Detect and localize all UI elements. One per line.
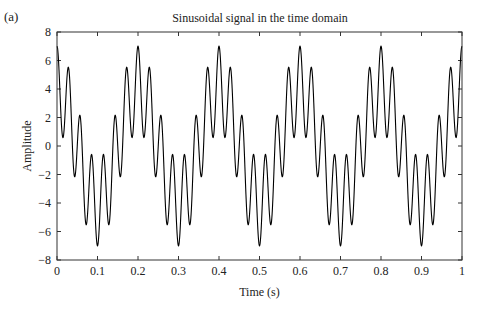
x-axis-label: Time (s) — [239, 285, 280, 299]
x-tick-label: 0.8 — [374, 264, 389, 278]
y-tick-label: 4 — [45, 82, 51, 96]
x-tick-label: 0.4 — [212, 264, 227, 278]
x-tick-label: 0.6 — [293, 264, 308, 278]
x-tick-label: 0 — [54, 264, 60, 278]
x-tick-label: 0.2 — [131, 264, 146, 278]
x-tick-label: 0.7 — [333, 264, 348, 278]
y-tick-label: −4 — [38, 196, 51, 210]
x-tick-label: 0.1 — [90, 264, 105, 278]
y-tick-label: 2 — [45, 111, 51, 125]
y-axis-label: Amplitude — [20, 120, 34, 171]
signal-line — [57, 46, 462, 246]
x-tick-label: 0.5 — [252, 264, 267, 278]
y-tick-label: −2 — [38, 168, 51, 182]
x-tick-label: 1 — [459, 264, 465, 278]
x-tick-label: 0.9 — [414, 264, 429, 278]
chart: (a) Sinusoidal signal in the time domain… — [0, 0, 481, 309]
y-tick-label: −6 — [38, 225, 51, 239]
y-tick-label: 6 — [45, 54, 51, 68]
panel-label: (a) — [4, 9, 18, 24]
y-tick-label: −8 — [38, 253, 51, 267]
y-tick-label: 8 — [45, 25, 51, 39]
chart-title: Sinusoidal signal in the time domain — [172, 11, 348, 25]
y-tick-label: 0 — [45, 139, 51, 153]
x-tick-label: 0.3 — [171, 264, 186, 278]
